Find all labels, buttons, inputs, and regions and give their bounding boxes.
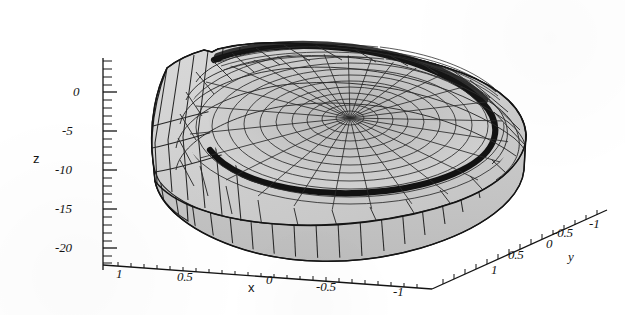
x-tick-label-1: 1: [116, 267, 122, 280]
z-tick-label-minus15: -15: [55, 202, 72, 215]
x-tick-label-0: 0: [266, 273, 272, 286]
y-tick-label-0-5: 0.5: [508, 248, 524, 261]
surface-plot-3d: [0, 0, 625, 315]
x-tick-label-minus1: -1: [393, 285, 403, 298]
z-axis-minor-ticks: [103, 61, 112, 263]
x-tick-label-0-5: 0.5: [177, 270, 193, 283]
y-tick-label-0: 0: [546, 237, 552, 250]
z-tick-label-0: 0: [73, 85, 79, 98]
x-tick-label-minus0-5: -0.5: [316, 280, 336, 293]
surface-body: [152, 43, 531, 265]
z-tick-label-minus5: -5: [62, 124, 72, 137]
x-axis-label: x: [248, 281, 255, 294]
y-tick-label-minus1: -1: [589, 217, 599, 230]
y-axis-label: y: [568, 250, 574, 263]
y-tick-label-minus0-5: -0.5: [553, 226, 573, 239]
z-tick-label-minus10: -10: [55, 163, 72, 176]
y-tick-label-1: 1: [491, 263, 497, 276]
z-axis-label: z: [33, 152, 40, 165]
z-tick-label-minus20: -20: [55, 241, 72, 254]
figure-canvas: 0 -5 -10 -15 -20 z 1 0.5 0 -0.5 -1 x 1 0…: [0, 0, 625, 315]
